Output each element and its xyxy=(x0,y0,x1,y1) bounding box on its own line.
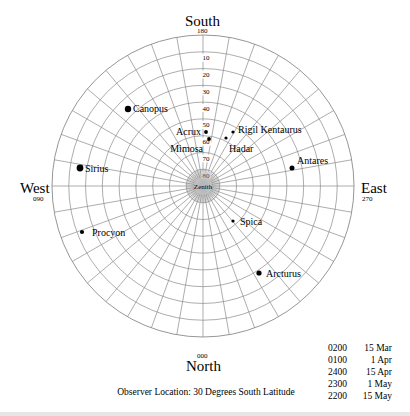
star-label: Mimosa xyxy=(170,143,203,154)
star-label: Canopus xyxy=(133,103,168,114)
zenith-marker: Zenith xyxy=(186,169,220,203)
observer-location-text: Observer Location: 30 Degrees South Lati… xyxy=(117,387,295,397)
star-label: Hadar xyxy=(229,143,254,154)
legend-time: 2400 xyxy=(328,366,352,378)
legend-time: 0100 xyxy=(328,354,352,366)
direction-west-label: West xyxy=(20,181,50,196)
star-label: Antares xyxy=(297,155,328,166)
zenith-label: Zenith xyxy=(194,183,213,191)
star-label: Procyon xyxy=(92,227,125,238)
observer-location: Observer Location: 30 Degrees South Lati… xyxy=(0,387,410,397)
legend-row: 0200 15 Mar xyxy=(328,342,392,354)
bearing-south: 180 xyxy=(197,28,208,35)
star-label: Rigil Kentaurus xyxy=(238,124,302,135)
legend-time: 0200 xyxy=(328,342,352,354)
altitude-labels: 1020304050607080 xyxy=(201,54,211,180)
star-spica: Spica xyxy=(231,216,262,227)
star-label: Sirius xyxy=(85,163,108,174)
star-label: Spica xyxy=(240,216,263,227)
legend-date: 15 Apr xyxy=(352,366,392,378)
star-canopus: Canopus xyxy=(125,103,168,114)
legend-row: 0100 1 Apr xyxy=(328,354,392,366)
star-hadar: Hadar xyxy=(224,136,254,153)
altitude-label: 10 xyxy=(203,54,211,62)
altitude-label: 20 xyxy=(203,71,211,79)
altitude-label: 40 xyxy=(203,105,211,113)
star-rigil-kentaurus: Rigil Kentaurus xyxy=(231,124,301,135)
direction-north-label: North xyxy=(186,359,221,374)
bottom-bar xyxy=(0,412,410,416)
direction-east-label: East xyxy=(361,181,387,196)
legend-date: 1 Apr xyxy=(352,354,392,366)
star-antares: Antares xyxy=(290,155,329,171)
bearing-west: 090 xyxy=(33,196,44,203)
altitude-label: 30 xyxy=(203,88,211,96)
legend-row: 2400 15 Apr xyxy=(328,366,392,378)
altitude-label: 70 xyxy=(203,155,211,163)
star-arcturus: Arcturus xyxy=(256,268,301,279)
star-sirius: Sirius xyxy=(77,163,109,174)
bearing-east: 270 xyxy=(362,196,373,203)
star-label: Acrux xyxy=(176,126,201,137)
star-label: Arcturus xyxy=(266,268,301,279)
legend-date: 15 Mar xyxy=(352,342,392,354)
altitude-label: 50 xyxy=(203,121,211,129)
